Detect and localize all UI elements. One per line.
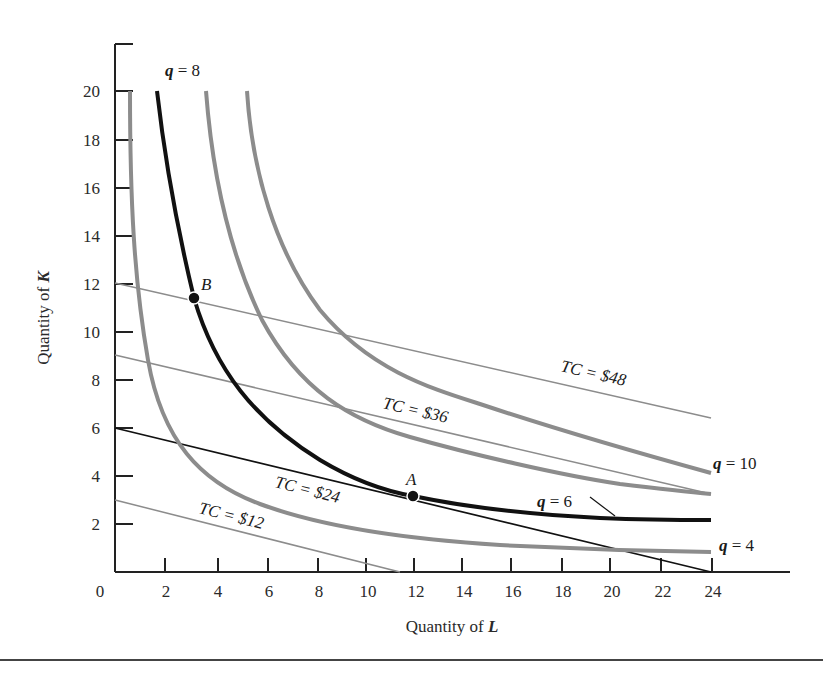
svg-text:4: 4	[92, 467, 101, 486]
svg-text:8: 8	[92, 371, 101, 390]
x-axis-title: Quantity of L	[406, 617, 499, 636]
x-tick-labels: 0 2 4 6 8 10 12 14 16 18 20 22 24	[96, 582, 722, 601]
label-tc48: TC = $48	[559, 356, 628, 390]
point-a-label: A	[405, 470, 417, 489]
points: A B	[188, 275, 419, 502]
cost-minimization-chart: 2 4 6 8 10 12 14 16 18 20 0 2 4 6 8 10 1…	[0, 0, 823, 673]
isoquant-q10	[247, 91, 711, 473]
label-tc36: TC = $36	[381, 393, 450, 427]
svg-text:16: 16	[83, 179, 100, 198]
svg-text:10: 10	[360, 582, 377, 601]
label-tc24: TC = $24	[273, 472, 342, 507]
isocost-tc12	[115, 500, 400, 572]
x-ticks	[165, 558, 712, 572]
svg-text:12: 12	[408, 582, 425, 601]
isoquant-labels: q = 8 q = 10 q = 6 q = 4	[165, 61, 757, 555]
point-a-marker	[407, 490, 419, 502]
svg-text:4: 4	[214, 582, 223, 601]
svg-text:20: 20	[604, 582, 621, 601]
y-tick-labels: 2 4 6 8 10 12 14 16 18 20	[83, 82, 101, 534]
isoquants	[130, 91, 711, 552]
svg-text:2: 2	[162, 582, 171, 601]
svg-text:6: 6	[92, 419, 101, 438]
svg-text:12: 12	[83, 275, 100, 294]
label-q6: q = 6	[537, 492, 572, 511]
svg-text:6: 6	[265, 582, 274, 601]
svg-text:24: 24	[705, 582, 723, 601]
y-axis-title: Quantity of K	[34, 270, 53, 365]
svg-text:8: 8	[315, 582, 324, 601]
svg-text:20: 20	[83, 82, 100, 101]
label-q4: q = 4	[719, 536, 755, 555]
svg-text:10: 10	[83, 323, 100, 342]
point-b-label: B	[201, 275, 212, 294]
svg-text:22: 22	[655, 582, 672, 601]
label-q10: q = 10	[713, 454, 757, 473]
svg-text:18: 18	[83, 131, 100, 150]
svg-text:16: 16	[505, 582, 522, 601]
svg-text:14: 14	[456, 582, 474, 601]
point-b-marker	[188, 292, 200, 304]
isoquant-q6	[157, 91, 711, 520]
label-q6-leader	[590, 497, 615, 516]
isocost-tc48	[115, 283, 711, 418]
label-q8: q = 8	[165, 61, 200, 80]
svg-text:14: 14	[83, 227, 101, 246]
svg-text:18: 18	[555, 582, 572, 601]
origin-label: 0	[96, 582, 105, 601]
svg-text:2: 2	[92, 515, 101, 534]
